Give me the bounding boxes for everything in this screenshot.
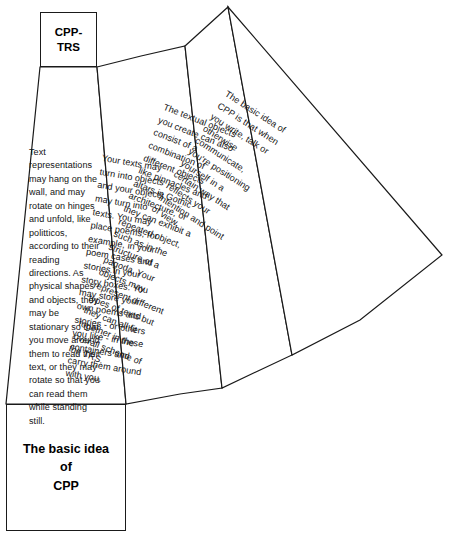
cpp-trs-header-box: CPP- TRS — [40, 12, 97, 67]
cpp-trs-header-label: CPP- TRS — [55, 25, 82, 54]
cpp-trs-fan-diagram: CPP- TRS The basic idea of CPP Text repr… — [0, 0, 453, 535]
basic-idea-footer-label: The basic idea of CPP — [23, 440, 109, 494]
